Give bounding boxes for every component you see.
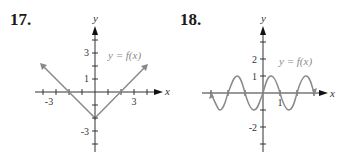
x-tick-label: 3 [132,96,137,107]
y-axis-arrow-icon [92,26,98,35]
vertex-point [94,117,97,120]
graph-17-panel: 17. -3 3 [0,0,174,158]
y-tick-label: -3 [81,126,89,137]
y-tick-label: 1 [252,71,257,82]
x-axis-arrow-icon [319,90,328,96]
x-axis-arrow-icon [154,89,163,95]
y-axis-label: y [260,12,266,24]
x-axis-label: x [329,87,335,99]
y-tick-label: -2 [249,122,257,133]
y-tick-label: 3 [84,47,89,58]
function-label: y = f(x) [107,49,141,62]
x-tick-label: -3 [45,96,53,107]
function-label: y = f(x) [278,55,312,68]
y-tick-label: 1 [84,73,89,84]
y-axis-label: y [92,12,98,24]
y-tick-label: 2 [252,54,257,65]
x-axis-label: x [164,85,170,97]
graph-17-plot: -3 3 3 1 -3 x y y = f(x) [0,0,174,158]
y-axis-arrow-icon [260,26,266,35]
graph-18-panel: 18. 1 2 1 -2 x y [174,0,348,158]
graph-18-plot: 1 2 1 -2 x y y = f(x) [174,0,348,158]
